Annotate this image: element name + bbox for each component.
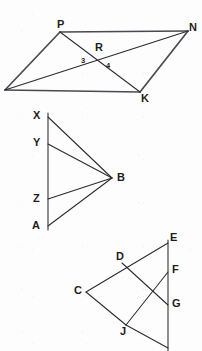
vertex-label-J: J xyxy=(120,326,126,337)
vertex-label-P: P xyxy=(57,19,64,30)
vertex-label-B: B xyxy=(117,172,125,183)
figure-fan-xyzab xyxy=(48,113,112,230)
vertex-label-Z: Z xyxy=(33,193,40,204)
vertex-label-E: E xyxy=(170,232,177,243)
segment-left-to-K xyxy=(5,90,140,92)
segment-A-to-B xyxy=(48,178,112,226)
vertex-label-Y: Y xyxy=(33,137,40,148)
vertex-label-C: C xyxy=(74,285,82,296)
segment-J-to-F xyxy=(126,272,168,325)
segment-X-to-B xyxy=(48,117,112,178)
vertex-label-K: K xyxy=(141,93,149,104)
vertex-label-N: N xyxy=(189,22,197,33)
worksheet-canvas: P N K R 3 4 X Y Z A B E D F C G J xyxy=(0,0,202,351)
vertex-label-F: F xyxy=(172,264,179,275)
segment-Y-to-B xyxy=(48,144,112,178)
vertex-label-R: R xyxy=(95,42,103,53)
figure-triangle-cdefgj xyxy=(86,240,168,351)
vertex-label-X: X xyxy=(33,110,40,121)
segment-K-to-N xyxy=(140,31,188,92)
segment-D-to-G xyxy=(122,263,168,305)
segment-P-to-N xyxy=(60,31,188,32)
segment-C-to-J xyxy=(86,292,126,325)
angle-label-4: 4 xyxy=(106,62,110,70)
vertex-label-D: D xyxy=(116,251,124,262)
vertex-label-A: A xyxy=(32,220,40,231)
segment-Z-to-B xyxy=(48,178,112,199)
segment-J-to-base xyxy=(126,325,168,348)
vertex-label-G: G xyxy=(172,298,181,309)
angle-label-3: 3 xyxy=(81,57,85,65)
